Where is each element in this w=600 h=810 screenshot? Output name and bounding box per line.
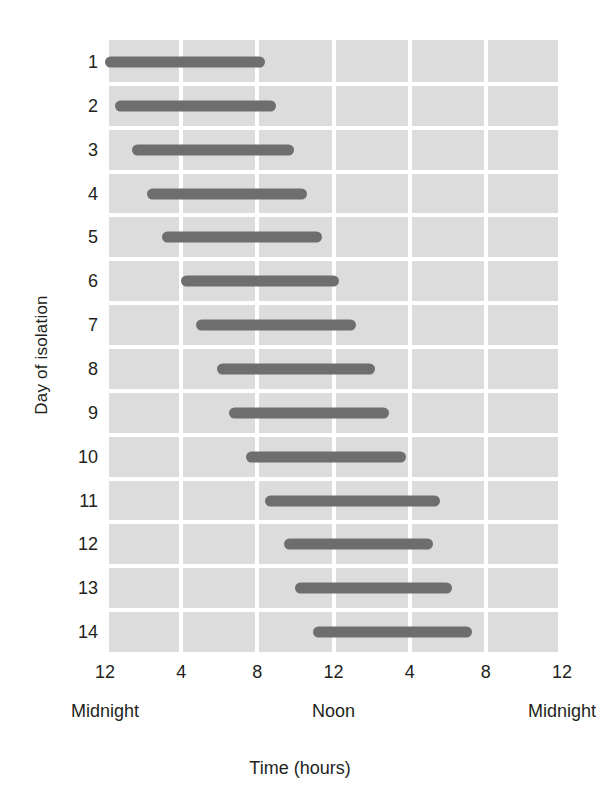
horizontal-gridline — [105, 564, 562, 568]
y-axis-tick-labels: 1234567891011121314 — [56, 40, 98, 654]
y-axis-tick-label: 7 — [56, 316, 98, 334]
sleep-period-bar — [132, 144, 294, 155]
y-axis-tick-label: 4 — [56, 185, 98, 203]
x-axis-period-label: Midnight — [482, 702, 600, 720]
x-axis-tick-label: 8 — [227, 663, 287, 681]
sleep-period-bar — [246, 451, 406, 462]
sleep-period-bar — [105, 56, 265, 67]
horizontal-gridline — [105, 301, 562, 305]
horizontal-gridline — [105, 389, 562, 393]
sleep-period-bar — [181, 276, 339, 287]
horizontal-gridline — [105, 213, 562, 217]
sleep-period-bar — [265, 495, 440, 506]
x-axis-title: Time (hours) — [0, 758, 600, 779]
sleep-period-bar — [196, 320, 356, 331]
horizontal-gridline — [105, 477, 562, 481]
y-axis-tick-label: 6 — [56, 272, 98, 290]
sleep-period-bar — [313, 627, 473, 638]
x-axis-tick-label: 12 — [75, 663, 135, 681]
x-axis-tick-labels: 1248124812 — [0, 663, 600, 691]
y-axis-title: Day of isolation — [32, 225, 52, 485]
x-axis-tick-label: 8 — [456, 663, 516, 681]
x-axis-tick-label: 4 — [380, 663, 440, 681]
y-axis-tick-label: 14 — [56, 623, 98, 641]
horizontal-gridline — [105, 433, 562, 437]
sleep-period-bar — [229, 407, 389, 418]
sleep-isolation-chart: Day of isolation 1234567891011121314 124… — [0, 0, 600, 810]
horizontal-gridline — [105, 82, 562, 86]
sleep-period-bar — [162, 232, 322, 243]
x-axis-tick-label: 4 — [151, 663, 211, 681]
horizontal-gridline — [105, 345, 562, 349]
horizontal-gridline — [105, 257, 562, 261]
horizontal-gridline — [105, 520, 562, 524]
sleep-period-bar — [284, 539, 433, 550]
horizontal-gridline — [105, 652, 562, 656]
x-axis-period-label: Noon — [254, 702, 414, 720]
y-axis-tick-label: 8 — [56, 360, 98, 378]
sleep-period-bar — [217, 363, 375, 374]
y-axis-tick-label: 9 — [56, 404, 98, 422]
y-axis-tick-label: 3 — [56, 141, 98, 159]
y-axis-tick-label: 13 — [56, 579, 98, 597]
y-axis-tick-label: 10 — [56, 448, 98, 466]
sleep-period-bar — [295, 583, 451, 594]
horizontal-gridline — [105, 126, 562, 130]
x-axis-period-labels: MidnightNoonMidnight — [0, 702, 600, 732]
sleep-period-bar — [115, 100, 277, 111]
horizontal-gridline — [105, 170, 562, 174]
sleep-period-bar — [147, 188, 307, 199]
x-axis-tick-label: 12 — [532, 663, 592, 681]
horizontal-gridline — [105, 608, 562, 612]
plot-area — [105, 40, 562, 654]
x-axis-tick-label: 12 — [304, 663, 364, 681]
x-axis-period-label: Midnight — [25, 702, 185, 720]
y-axis-tick-label: 12 — [56, 535, 98, 553]
y-axis-tick-label: 2 — [56, 97, 98, 115]
y-axis-tick-label: 5 — [56, 228, 98, 246]
y-axis-tick-label: 11 — [56, 492, 98, 510]
y-axis-tick-label: 1 — [56, 53, 98, 71]
